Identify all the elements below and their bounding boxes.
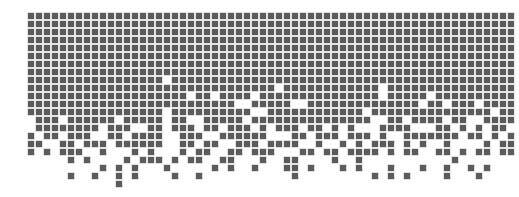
grid-square: [260, 157, 266, 163]
grid-square: [244, 125, 250, 131]
grid-square: [236, 93, 242, 99]
grid-square: [308, 109, 314, 115]
grid-square: [452, 37, 458, 43]
grid-square: [148, 21, 154, 27]
grid-square: [124, 141, 130, 147]
grid-square: [316, 13, 322, 19]
grid-square: [68, 61, 74, 67]
grid-square: [492, 53, 498, 59]
grid-square: [148, 125, 154, 131]
grid-square: [468, 45, 474, 51]
grid-square: [348, 101, 354, 107]
grid-square: [68, 117, 74, 123]
grid-square: [132, 77, 138, 83]
grid-square: [404, 141, 410, 147]
grid-square: [252, 45, 258, 51]
grid-square: [100, 37, 106, 43]
grid-square: [444, 77, 450, 83]
grid-square: [36, 117, 42, 123]
grid-square: [76, 133, 82, 139]
grid-square: [92, 93, 98, 99]
grid-square: [420, 133, 426, 139]
grid-square: [44, 53, 50, 59]
grid-square: [36, 13, 42, 19]
grid-square: [396, 29, 402, 35]
grid-square: [212, 109, 218, 115]
grid-square: [212, 45, 218, 51]
grid-square: [172, 21, 178, 27]
grid-square: [492, 93, 498, 99]
grid-square: [420, 165, 426, 171]
grid-square: [188, 53, 194, 59]
grid-square: [492, 29, 498, 35]
grid-square: [172, 69, 178, 75]
grid-square: [508, 37, 514, 43]
grid-square: [204, 125, 210, 131]
grid-square: [164, 165, 170, 171]
grid-square: [468, 69, 474, 75]
grid-square: [508, 93, 514, 99]
grid-square: [236, 13, 242, 19]
grid-square: [348, 21, 354, 27]
grid-square: [412, 77, 418, 83]
grid-square: [508, 29, 514, 35]
grid-square: [452, 13, 458, 19]
grid-square: [84, 29, 90, 35]
grid-square: [84, 117, 90, 123]
grid-square: [284, 125, 290, 131]
grid-square: [404, 133, 410, 139]
grid-square: [292, 37, 298, 43]
grid-square: [364, 117, 370, 123]
grid-square: [500, 13, 506, 19]
grid-square: [436, 29, 442, 35]
grid-square: [76, 117, 82, 123]
grid-square: [468, 85, 474, 91]
grid-square: [252, 117, 258, 123]
grid-square: [36, 77, 42, 83]
grid-square: [388, 61, 394, 67]
grid-square: [28, 37, 34, 43]
grid-square: [500, 109, 506, 115]
grid-square: [188, 133, 194, 139]
grid-square: [92, 61, 98, 67]
grid-square: [44, 77, 50, 83]
grid-square: [252, 13, 258, 19]
grid-square: [292, 157, 298, 163]
grid-square: [476, 125, 482, 131]
grid-square: [476, 45, 482, 51]
grid-square: [140, 93, 146, 99]
grid-square: [380, 21, 386, 27]
grid-square: [116, 29, 122, 35]
grid-square: [132, 61, 138, 67]
grid-square: [332, 37, 338, 43]
grid-square: [140, 53, 146, 59]
grid-square: [236, 45, 242, 51]
grid-square: [484, 37, 490, 43]
grid-square: [36, 141, 42, 147]
grid-square: [244, 141, 250, 147]
grid-square: [252, 53, 258, 59]
grid-square: [316, 77, 322, 83]
grid-square: [220, 85, 226, 91]
grid-square: [380, 69, 386, 75]
grid-square: [68, 77, 74, 83]
grid-square: [388, 85, 394, 91]
grid-square: [116, 21, 122, 27]
grid-square: [324, 13, 330, 19]
grid-square: [284, 21, 290, 27]
grid-square: [52, 77, 58, 83]
grid-square: [388, 37, 394, 43]
grid-square: [364, 133, 370, 139]
grid-square: [460, 61, 466, 67]
grid-square: [52, 93, 58, 99]
grid-square: [36, 53, 42, 59]
grid-square: [100, 141, 106, 147]
grid-square: [428, 21, 434, 27]
grid-square: [284, 29, 290, 35]
grid-square: [244, 61, 250, 67]
grid-square: [116, 133, 122, 139]
grid-square: [276, 53, 282, 59]
grid-square: [60, 69, 66, 75]
grid-square: [316, 133, 322, 139]
grid-square: [460, 117, 466, 123]
